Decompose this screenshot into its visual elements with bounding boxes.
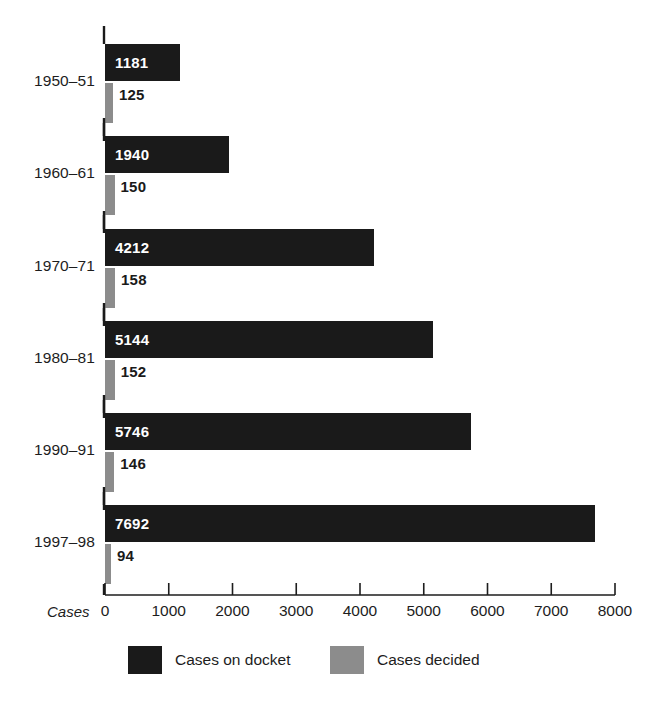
- legend-item-1: Cases on docket: [128, 638, 290, 682]
- bar-cases-decided: [105, 268, 115, 308]
- x-tick-label: 4000: [320, 602, 400, 620]
- legend-swatch-icon: [128, 646, 162, 674]
- bar-cases-decided: [105, 83, 113, 123]
- bar-value-label: 1181: [115, 54, 148, 71]
- category-label-4: 1980–81: [10, 349, 95, 367]
- category-label-3: 1970–71: [10, 257, 95, 275]
- x-tick-label: 3000: [256, 602, 336, 620]
- legend-label: Cases decided: [377, 651, 480, 669]
- legend-label: Cases on docket: [175, 651, 290, 669]
- x-tick-label: 6000: [448, 602, 528, 620]
- bar-value-label: 5746: [115, 423, 149, 440]
- bar-cases-on-docket: [105, 413, 471, 450]
- chart-legend: Cases on docketCases decided: [0, 638, 659, 682]
- x-tick-label: 1000: [129, 602, 209, 620]
- bar-value-label: 5144: [115, 331, 149, 348]
- bar-value-label: 158: [121, 271, 147, 288]
- plot-area: 11811251950–5119401501960–6142121581970–…: [0, 0, 659, 600]
- bar-value-label: 4212: [115, 239, 149, 256]
- x-tick-label: 7000: [511, 602, 591, 620]
- x-tick-label: 5000: [384, 602, 464, 620]
- legend-swatch-icon: [330, 646, 364, 674]
- bar-value-label: 125: [119, 86, 145, 103]
- x-axis-title: Cases: [47, 603, 90, 620]
- category-label-2: 1960–61: [10, 164, 95, 182]
- legend-item-2: Cases decided: [330, 638, 480, 682]
- bar-cases-decided: [105, 544, 111, 584]
- x-tick-label: 0: [65, 602, 145, 620]
- bar-value-label: 152: [121, 363, 147, 380]
- bar-cases-decided: [105, 452, 114, 492]
- bar-value-label: 7692: [115, 515, 149, 532]
- bar-value-label: 1940: [115, 146, 149, 163]
- category-label-1: 1950–51: [10, 72, 95, 90]
- bar-cases-on-docket: [105, 505, 595, 542]
- bar-value-label: 146: [120, 455, 146, 472]
- category-label-5: 1990–91: [10, 441, 95, 459]
- x-tick-label: 8000: [575, 602, 655, 620]
- bar-value-label: 94: [117, 547, 134, 564]
- bar-cases-decided: [105, 360, 115, 400]
- category-label-6: 1997–98: [10, 533, 95, 551]
- bar-cases-on-docket: [105, 321, 433, 358]
- bar-cases-decided: [105, 175, 115, 215]
- bar-chart: 11811251950–5119401501960–6142121581970–…: [0, 0, 659, 702]
- x-tick-label: 2000: [193, 602, 273, 620]
- bar-value-label: 150: [121, 178, 147, 195]
